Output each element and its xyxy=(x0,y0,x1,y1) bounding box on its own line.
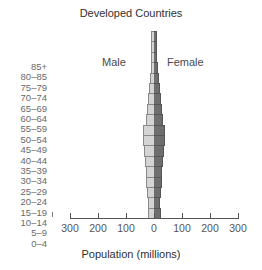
legend-male-label: Male xyxy=(102,56,126,68)
x-axis-tick xyxy=(210,213,211,218)
x-axis-tick xyxy=(98,213,99,218)
x-axis-tick xyxy=(70,213,71,218)
x-axis-tick xyxy=(154,213,155,218)
x-axis-tick-label: 100 xyxy=(111,222,141,234)
x-axis-tick-label: 300 xyxy=(223,222,253,234)
x-axis-tick-label: 200 xyxy=(83,222,113,234)
x-axis-tick-label: 100 xyxy=(167,222,197,234)
x-axis-tick-label: 200 xyxy=(195,222,225,234)
x-axis-tick-label: 300 xyxy=(55,222,85,234)
x-axis-tick xyxy=(182,213,183,218)
x-axis-tick xyxy=(238,213,239,218)
x-axis-label: Population (millions) xyxy=(0,248,262,260)
x-axis-tick xyxy=(126,213,127,218)
y-axis-tick xyxy=(52,212,53,217)
x-axis-line xyxy=(70,218,239,219)
x-axis-tick-label: 0 xyxy=(139,222,169,234)
legend-female-label: Female xyxy=(167,56,204,68)
population-pyramid-plot: Male Female 3002001000100200300 xyxy=(0,0,262,270)
